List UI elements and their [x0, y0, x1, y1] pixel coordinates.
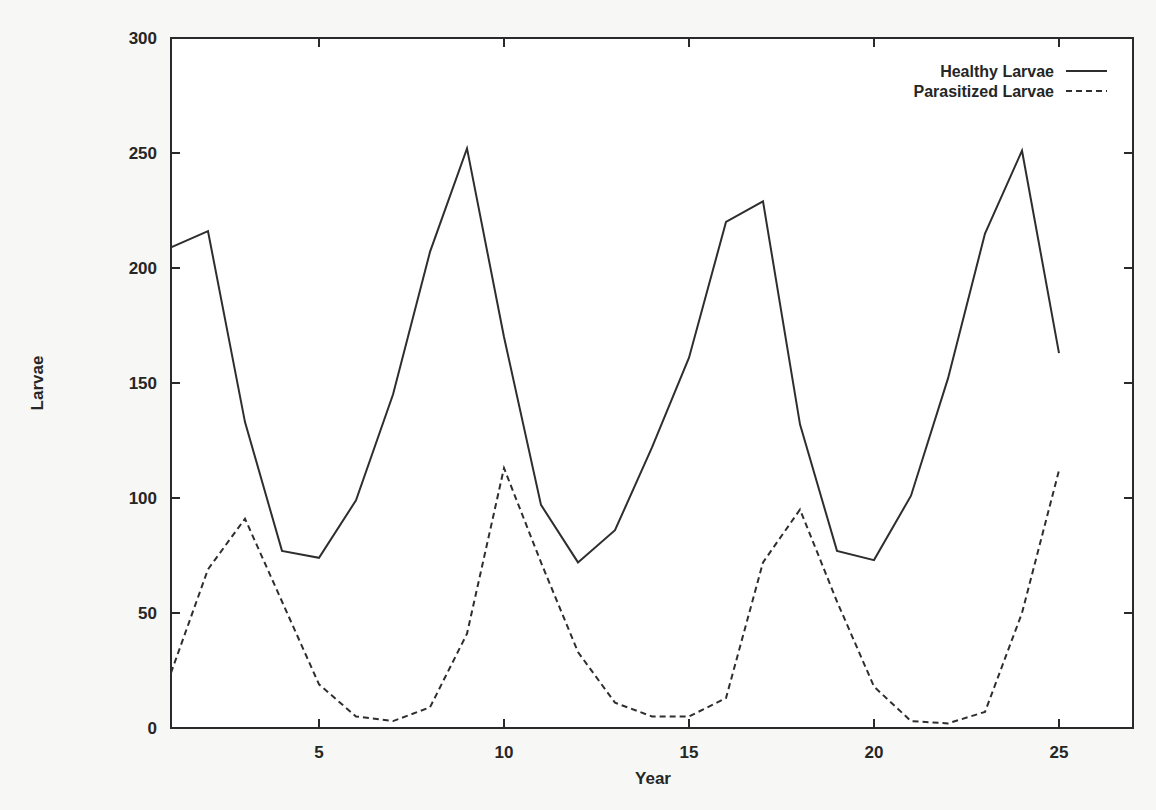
- y-tick-label: 0: [148, 719, 157, 738]
- legend-label: Parasitized Larvae: [913, 83, 1054, 100]
- y-tick-label: 300: [129, 29, 157, 48]
- x-tick-label: 5: [314, 743, 323, 762]
- line-chart: 050100150200250300 510152025 Year Larvae…: [0, 0, 1156, 810]
- y-tick-label: 150: [129, 374, 157, 393]
- x-tick-label: 15: [680, 743, 699, 762]
- y-tick-label: 50: [138, 604, 157, 623]
- y-tick-label: 200: [129, 259, 157, 278]
- plot-frame: [171, 38, 1133, 728]
- x-tick-label: 10: [495, 743, 514, 762]
- y-axis-label: Larvae: [28, 356, 47, 411]
- y-tick-label: 250: [129, 144, 157, 163]
- x-tick-label: 20: [865, 743, 884, 762]
- x-axis-label: Year: [635, 769, 671, 788]
- y-tick-label: 100: [129, 489, 157, 508]
- x-tick-label: 25: [1050, 743, 1069, 762]
- legend-label: Healthy Larvae: [940, 63, 1054, 80]
